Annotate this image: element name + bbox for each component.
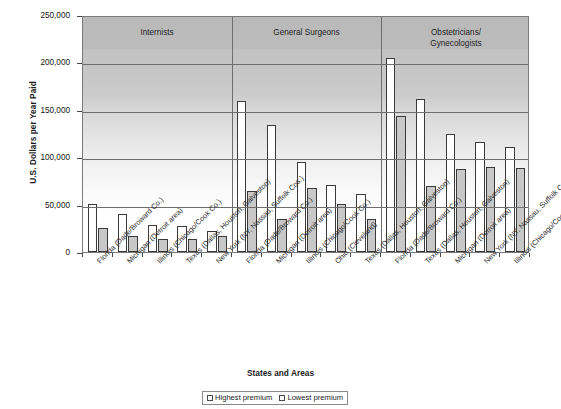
y-axis-title: U.S. Dollars per Year Paid <box>29 48 38 218</box>
bar-lowest-premium <box>486 167 496 252</box>
x-tick-label: Texas (Dallas, Houston, Galveston) <box>423 259 429 265</box>
gridline <box>83 64 528 65</box>
x-tick-mark <box>82 253 83 257</box>
malpractice-premium-bar-chart: U.S. Dollars per Year Paid Internists Ge… <box>0 0 561 409</box>
group-divider <box>381 17 382 252</box>
x-tick-label: New York (NY, Nassau, Suffolk Cos.) <box>214 259 220 265</box>
x-tick-label: Michigan (Detroit area) <box>453 259 459 265</box>
x-tick-label: Illinois (Chicago/Cook Co.) <box>155 259 161 265</box>
legend-item-highest: Highest premium <box>207 393 272 402</box>
bar-highest-premium <box>88 204 98 252</box>
x-tick-label: Ohio (Cleveland) <box>333 259 339 265</box>
gridline <box>83 112 528 113</box>
y-tick-label: 0 <box>8 249 70 257</box>
y-tick-mark <box>77 111 82 112</box>
gridline <box>83 159 528 160</box>
legend-label-highest: Highest premium <box>215 393 272 402</box>
x-tick-label: Michigan (Detroit area) <box>125 259 131 265</box>
x-tick-label: Texas (Dallas, Houston, Galveston) <box>363 259 369 265</box>
y-tick-mark <box>77 206 82 207</box>
legend-label-lowest: Lowest premium <box>287 393 343 402</box>
x-tick-label: Florida (Dade/Broward Co.) <box>393 259 399 265</box>
y-tick-mark <box>77 158 82 159</box>
x-tick-label: Texas (Dallas, Houston, Galveston) <box>184 259 190 265</box>
y-tick-label: 50,000 <box>8 202 70 210</box>
y-tick-label: 200,000 <box>8 59 70 67</box>
y-tick-label: 150,000 <box>8 107 70 115</box>
y-tick-mark <box>77 63 82 64</box>
chart-legend: Highest premium Lowest premium <box>202 391 348 405</box>
x-tick-label: Illinois (Chicago/Cook Co.) <box>304 259 310 265</box>
x-axis-title: States and Areas <box>0 368 561 378</box>
bar-highest-premium <box>386 58 396 252</box>
x-tick-label: Florida (Dade/Broward Co.) <box>244 259 250 265</box>
y-tick-mark <box>77 16 82 17</box>
bar-lowest-premium <box>516 168 526 252</box>
y-tick-label: 100,000 <box>8 154 70 162</box>
legend-swatch-lowest-icon <box>279 395 285 401</box>
bar-lowest-premium <box>456 169 466 252</box>
x-tick-label: Michigan (Detroit area) <box>274 259 280 265</box>
x-tick-label: Illinois (Chicago/Cook Co.) <box>512 259 518 265</box>
y-tick-label: 250,000 <box>8 12 70 20</box>
x-tick-label: New York (NY, Nassau, Suffolk Cos.) <box>482 259 488 265</box>
x-tick-label: Florida (Dade/Broward Co.) <box>95 259 101 265</box>
legend-item-lowest: Lowest premium <box>279 393 343 402</box>
legend-swatch-highest-icon <box>207 395 213 401</box>
